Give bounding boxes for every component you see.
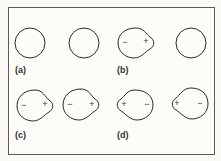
sign-d1-minus: − — [144, 99, 149, 109]
sign-d2-minus: − — [197, 98, 202, 108]
sign-b1-minus: − — [122, 37, 127, 47]
sign-b1-plus: + — [143, 36, 148, 46]
sign-c2-minus: − — [67, 99, 72, 109]
panel-label-c: (c) — [15, 130, 26, 140]
panel-label-d: (d) — [117, 130, 129, 140]
panel-label-a: (a) — [15, 65, 26, 75]
atom-a2 — [69, 28, 99, 58]
sign-c2-plus: + — [89, 99, 94, 109]
sign-c1-plus: + — [42, 99, 47, 109]
sign-d2-plus: + — [174, 98, 179, 108]
panel-label-b: (b) — [117, 65, 129, 75]
sign-c1-minus: − — [21, 100, 26, 110]
atom-b2 — [176, 28, 206, 58]
atom-a1 — [15, 28, 45, 58]
sign-d1-plus: + — [121, 99, 126, 109]
atom-diagram: − + − + − + + − + − — [0, 0, 221, 161]
